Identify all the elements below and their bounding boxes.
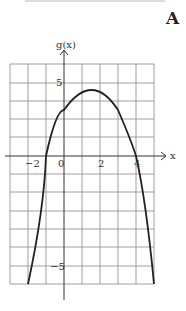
x-tick-4: 4 [134,158,140,169]
y-tick-5: 5 [56,77,62,88]
y-tick-neg5: −5 [50,261,65,272]
axes [5,50,166,300]
x-tick-2: 2 [98,158,104,169]
grid [10,64,154,284]
x-tick-0: 0 [58,158,64,169]
graph: g(x) x 5 −5 −2 0 2 4 [0,0,186,311]
y-axis-label: g(x) [56,39,76,50]
x-axis-label: x [170,150,176,161]
x-tick-neg2: −2 [25,158,40,169]
